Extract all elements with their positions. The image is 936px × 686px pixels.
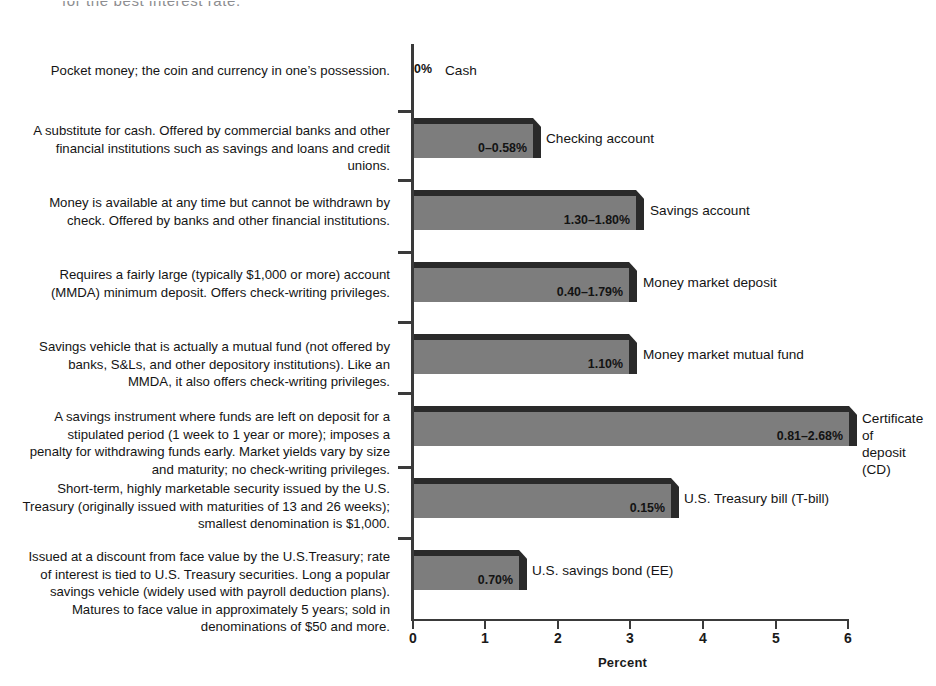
bar-value-label: 0% <box>414 62 432 76</box>
bar-value-label: 0.81–2.68% <box>777 429 843 443</box>
bar-category-label: Certificate of deposit (CD) <box>862 410 936 478</box>
category-tick <box>398 179 412 182</box>
bar: 0.40–1.79% <box>414 262 629 302</box>
bar-category-label: Cash <box>445 62 477 79</box>
x-tick-label-5: 5 <box>761 630 791 646</box>
x-tick-label-3: 3 <box>615 630 645 646</box>
bar-value-label: 0.40–1.79% <box>557 285 623 299</box>
x-tick-6 <box>847 621 849 629</box>
bar: 1.10% <box>414 334 629 374</box>
bar: 0.15% <box>414 478 671 518</box>
x-tick-4 <box>702 621 704 629</box>
x-tick-2 <box>557 621 559 629</box>
row-description: Savings vehicle that is actually a mutua… <box>22 338 390 391</box>
x-tick-5 <box>775 621 777 629</box>
bar-value-label: 1.30–1.80% <box>564 213 630 227</box>
horizontal-bar-chart: 0 1 2 3 4 5 6 Percent Pocket money; the … <box>0 0 936 686</box>
bar: 0–0.58% <box>414 118 533 158</box>
category-tick <box>398 537 412 540</box>
row-description: Short-term, highly marketable security i… <box>22 480 390 533</box>
bar-category-label: U.S. Treasury bill (T-bill) <box>684 490 829 507</box>
x-tick-3 <box>629 621 631 629</box>
bar: 0.70% <box>414 550 519 590</box>
bar-value-label: 1.10% <box>588 357 623 371</box>
x-tick-label-4: 4 <box>688 630 718 646</box>
x-tick-label-1: 1 <box>470 630 500 646</box>
bar: 1.30–1.80% <box>414 190 636 230</box>
x-tick-1 <box>484 621 486 629</box>
bar-value-label: 0.70% <box>478 573 513 587</box>
bar-category-label: Savings account <box>650 202 750 219</box>
x-tick-label-2: 2 <box>543 630 573 646</box>
row-description: Pocket money; the coin and currency in o… <box>22 62 390 80</box>
bar-value-label: 0–0.58% <box>478 141 527 155</box>
bar-category-label: U.S. savings bond (EE) <box>532 562 673 579</box>
bar-category-label: Money market mutual fund <box>643 346 804 363</box>
category-tick <box>398 466 412 469</box>
category-tick <box>398 251 412 254</box>
row-description: Requires a fairly large (typically $1,00… <box>22 266 390 301</box>
category-tick <box>398 392 412 395</box>
x-axis-title: Percent <box>598 655 647 670</box>
category-tick <box>398 110 412 113</box>
bar-category-label: Checking account <box>546 130 654 147</box>
row-description: A savings instrument where funds are lef… <box>22 408 390 478</box>
x-tick-0 <box>412 621 414 629</box>
row-description: A substitute for cash. Offered by commer… <box>22 122 390 175</box>
row-description: Money is available at any time but canno… <box>22 194 390 229</box>
bar-value-label: 0.15% <box>630 501 665 515</box>
bar: 0.81–2.68% <box>414 406 849 446</box>
category-tick <box>398 321 412 324</box>
x-tick-label-6: 6 <box>833 630 863 646</box>
bar-category-label: Money market deposit <box>643 274 777 291</box>
x-tick-label-0: 0 <box>398 630 428 646</box>
row-description: Issued at a discount from face value by … <box>22 548 390 636</box>
